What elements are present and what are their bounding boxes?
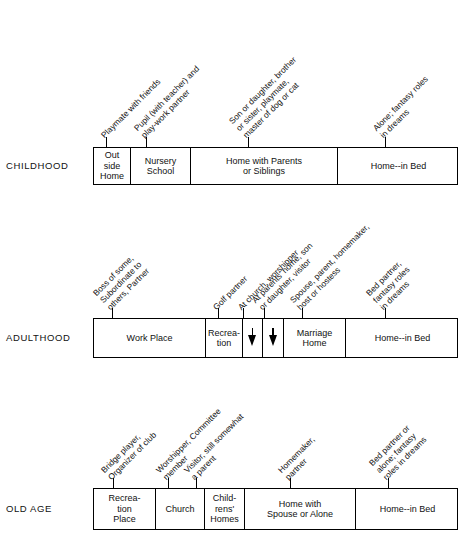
setting-cell-line: Recrea-: [108, 493, 140, 504]
setting-cell: Work Place: [94, 319, 206, 357]
setting-box-row: Recrea-tionPlaceChurchChild-rens'HomesHo…: [93, 488, 458, 530]
setting-cell: Recrea-tion: [206, 319, 243, 357]
role-annotation: Homemaker,partner: [276, 434, 324, 482]
setting-cell-line: Nursery: [145, 156, 177, 167]
setting-cell-line: Home: [100, 171, 124, 182]
setting-cell-line: Home--in Bed: [380, 504, 436, 515]
setting-cell-line: Work Place: [127, 333, 173, 344]
role-annotation: Bridge player,Organizer of club: [99, 423, 158, 482]
setting-cell: Recrea-tionPlace: [94, 489, 156, 529]
setting-cell-line: tion: [117, 504, 132, 515]
setting-cell-line: Home--in Bed: [371, 161, 427, 172]
setting-cell-line: Out: [105, 150, 120, 161]
setting-cell: Church: [156, 489, 205, 529]
setting-cell: Child-rens'Homes: [205, 489, 245, 529]
setting-cell-line: Home with: [279, 499, 322, 510]
lifespan-roles-diagram: CHILDHOODOutsideHomeNurserySchoolHome wi…: [0, 0, 473, 543]
setting-box-row: OutsideHomeNurserySchoolHome with Parent…: [93, 147, 458, 185]
role-annotation-line: or sister, playmate,: [234, 62, 305, 133]
stage-label: OLD AGE: [6, 503, 90, 514]
setting-cell-line: Home with Parents: [226, 156, 302, 167]
role-annotation: Son or daughter, brotheror sister, playm…: [227, 55, 312, 140]
role-annotation: Boss of some,Subordinate toothers, Partn…: [91, 252, 151, 312]
setting-cell-line: Marriage: [297, 328, 333, 339]
setting-cell-line: rens': [215, 504, 234, 515]
setting-box-row: Work PlaceRecrea-tionMarriageHomeHome--i…: [93, 318, 458, 358]
role-annotation: Bed partner,fantasy rolesin dreams: [364, 257, 419, 312]
setting-cell: Home--in Bed: [338, 148, 459, 184]
setting-cell: Home--in Bed: [346, 319, 459, 357]
setting-cell-line: Home--in Bed: [375, 333, 431, 344]
setting-cell-line: Spouse or Alone: [267, 509, 333, 520]
setting-cell: NurserySchool: [131, 148, 191, 184]
setting-cell-line: Church: [165, 504, 194, 515]
setting-cell: OutsideHome: [94, 148, 131, 184]
setting-cell-line: or Siblings: [243, 166, 285, 177]
setting-cell-line: Child-: [213, 493, 237, 504]
stage-label: ADULTHOOD: [6, 332, 90, 343]
setting-cell-line: Homes: [210, 514, 239, 525]
setting-cell-arrow: [263, 319, 284, 357]
role-annotation: Alone; fantasy rolesin dreams: [371, 74, 437, 140]
setting-cell-line: Home: [302, 338, 326, 349]
setting-cell: MarriageHome: [284, 319, 346, 357]
setting-cell-line: side: [104, 161, 121, 172]
setting-cell-line: School: [147, 166, 175, 177]
setting-cell: Home--in Bed: [356, 489, 459, 529]
role-annotation: Bed partner oralone; fantasyroles in dre…: [367, 420, 429, 482]
stage-label: CHILDHOOD: [6, 160, 90, 171]
setting-cell: Home with Parentsor Siblings: [191, 148, 338, 184]
setting-cell-line: Place: [113, 514, 136, 525]
down-arrow-icon: [248, 328, 257, 348]
down-arrow-icon: [269, 328, 278, 348]
setting-cell: Home withSpouse or Alone: [245, 489, 356, 529]
setting-cell-arrow: [243, 319, 263, 357]
setting-cell-line: tion: [217, 338, 232, 349]
setting-cell-line: Recrea-: [208, 328, 240, 339]
